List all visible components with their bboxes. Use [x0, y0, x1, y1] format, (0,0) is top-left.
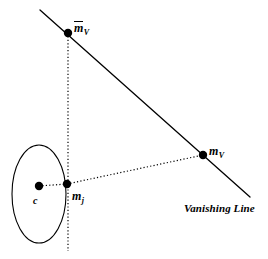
label-m-j: mj: [72, 190, 84, 205]
m-j-point: [63, 180, 71, 188]
label-m-v: mV: [209, 145, 224, 160]
label-m-bar-v-subscript: V: [84, 28, 89, 37]
label-c: c: [33, 196, 37, 206]
label-m-v-base: m: [209, 144, 218, 158]
m-bar-v-point: [64, 29, 72, 37]
c-to-mj-dotted: [39, 184, 67, 186]
m-v-point: [199, 151, 207, 159]
label-vanishing-line: Vanishing Line: [184, 203, 255, 214]
label-m-j-subscript: j: [82, 196, 84, 205]
label-m-bar-v: mV: [74, 21, 89, 37]
label-m-v-subscript: V: [219, 151, 224, 160]
c-point: [35, 182, 43, 190]
circle-outline: [12, 145, 66, 243]
diagram-canvas: [0, 0, 268, 259]
mj-to-mv-dotted: [67, 155, 203, 184]
vanishing-line-segment: [40, 10, 250, 197]
label-m-bar-v-base: m: [74, 21, 83, 34]
figure-container: mV mV mj c Vanishing Line: [0, 0, 268, 259]
label-m-j-base: m: [72, 189, 81, 203]
